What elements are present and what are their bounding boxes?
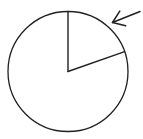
circle-sector-diagram: Circle with a marked sector [0,0,143,139]
slanted-radius-line [68,52,125,72]
figure-root: Circle with a marked sector [0,0,143,139]
sector-pointer-arrow [113,11,141,26]
